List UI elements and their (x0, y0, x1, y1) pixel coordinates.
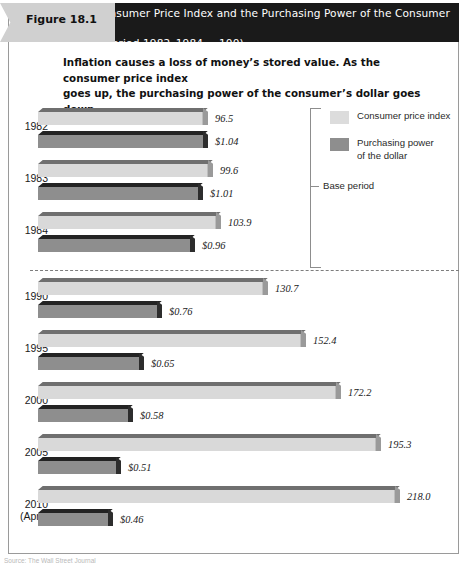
value-label-cpi: 172.2 (348, 387, 371, 398)
bar-side-bevel (128, 405, 133, 422)
period-divider (30, 270, 459, 271)
bar-face (38, 334, 301, 347)
bar-consumer-price-index (38, 212, 221, 229)
legend-item: Purchasing powerof the dollar (330, 137, 460, 155)
bar-face (38, 490, 395, 503)
bar-purchasing-power (38, 183, 203, 200)
bar-face (38, 305, 157, 318)
value-label-cpi: 195.3 (388, 439, 411, 450)
bar-consumer-price-index (38, 160, 213, 177)
bar-consumer-price-index (38, 486, 400, 503)
bar-face (38, 282, 263, 295)
bar-side-bevel (208, 160, 213, 177)
bar-consumer-price-index (38, 330, 306, 347)
legend-label: Consumer price index (357, 110, 462, 123)
bar-consumer-price-index (38, 382, 341, 399)
bar-purchasing-power (38, 131, 208, 148)
bar-side-bevel (157, 301, 162, 318)
legend-swatch (330, 111, 349, 124)
chart-legend: Consumer price indexPurchasing powerof t… (330, 110, 460, 164)
bar-purchasing-power (38, 301, 162, 318)
value-label-purchasing-power: $0.51 (128, 462, 151, 473)
source-note: Source: The Wall Street Journal (4, 557, 464, 564)
chart-plot-area: 198296.5$1.04198399.6$1.011984103.9$0.96… (0, 0, 467, 565)
bar-face (38, 112, 203, 125)
value-label-cpi: 99.6 (220, 165, 238, 176)
base-period-bracket (310, 108, 321, 268)
bar-consumer-price-index (38, 108, 208, 125)
base-period-bracket-tick (310, 186, 319, 187)
bar-side-bevel (203, 108, 208, 125)
base-period-label: Base period (323, 180, 374, 191)
bar-face (38, 164, 208, 177)
bar-face (38, 461, 116, 474)
bar-side-bevel (301, 330, 306, 347)
bar-side-bevel (108, 509, 113, 526)
value-label-purchasing-power: $0.96 (202, 240, 225, 251)
bar-face (38, 438, 376, 451)
bar-face (38, 357, 139, 370)
legend-label-line1: Purchasing power (357, 137, 462, 150)
value-label-purchasing-power: $0.65 (151, 358, 174, 369)
bar-purchasing-power (38, 457, 121, 474)
bar-side-bevel (395, 486, 400, 503)
bar-purchasing-power (38, 235, 195, 252)
legend-item: Consumer price index (330, 110, 460, 128)
bar-purchasing-power (38, 509, 113, 526)
bar-side-bevel (263, 278, 268, 295)
value-label-cpi: 96.5 (215, 113, 233, 124)
value-label-purchasing-power: $0.76 (169, 306, 192, 317)
bar-side-bevel (198, 183, 203, 200)
value-label-cpi: 103.9 (228, 217, 251, 228)
bar-face (38, 135, 203, 148)
value-label-cpi: 218.0 (407, 491, 430, 502)
value-label-purchasing-power: $1.04 (215, 136, 238, 147)
legend-label-line1: Consumer price index (357, 110, 462, 123)
value-label-purchasing-power: $0.58 (140, 410, 163, 421)
bar-side-bevel (203, 131, 208, 148)
legend-label: Purchasing powerof the dollar (357, 137, 462, 162)
bar-side-bevel (336, 382, 341, 399)
value-label-purchasing-power: $1.01 (210, 188, 233, 199)
bar-side-bevel (116, 457, 121, 474)
legend-swatch (330, 138, 349, 151)
bar-purchasing-power (38, 353, 144, 370)
bar-consumer-price-index (38, 434, 381, 451)
value-label-cpi: 130.7 (275, 283, 298, 294)
bar-face (38, 216, 216, 229)
bar-face (38, 409, 128, 422)
bar-side-bevel (139, 353, 144, 370)
bar-face (38, 239, 190, 252)
bar-face (38, 513, 108, 526)
bar-side-bevel (376, 434, 381, 451)
legend-label-line2: of the dollar (357, 150, 462, 163)
value-label-purchasing-power: $0.46 (120, 514, 143, 525)
bar-side-bevel (216, 212, 221, 229)
bar-purchasing-power (38, 405, 133, 422)
bar-face (38, 187, 198, 200)
value-label-cpi: 152.4 (313, 335, 336, 346)
bar-side-bevel (190, 235, 195, 252)
bar-consumer-price-index (38, 278, 268, 295)
bar-face (38, 386, 336, 399)
